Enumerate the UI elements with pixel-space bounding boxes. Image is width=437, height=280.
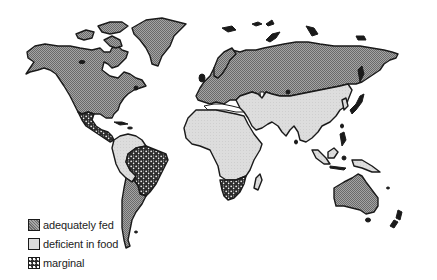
island-sulawesi xyxy=(342,156,346,160)
island-tasmania xyxy=(366,218,371,222)
island-new-zealand-south xyxy=(390,220,398,228)
region-madagascar xyxy=(254,174,262,190)
region-caribbean xyxy=(114,122,128,125)
island xyxy=(128,127,133,129)
island-taiwan xyxy=(341,124,344,128)
legend-swatch-deficient xyxy=(28,238,40,250)
island-britain xyxy=(199,74,205,82)
island xyxy=(387,187,390,189)
island xyxy=(266,20,274,26)
legend-label: deficient in food xyxy=(43,238,118,250)
island-svalbard xyxy=(222,26,236,32)
region-north-america xyxy=(26,44,146,118)
region-arctic-islands xyxy=(76,30,94,40)
island xyxy=(134,86,138,90)
legend-swatch-adequately-fed xyxy=(28,219,40,231)
island-falklands xyxy=(135,231,138,233)
region-australia xyxy=(334,174,378,214)
island-severnaya xyxy=(306,26,318,36)
region-baffin xyxy=(104,36,122,48)
legend-swatch-marginal xyxy=(28,257,40,269)
region-arctic-islands-2 xyxy=(98,22,128,34)
region-greenland xyxy=(132,18,186,66)
island xyxy=(252,22,262,26)
lake xyxy=(286,90,290,94)
legend: adequately fed deficient in food margina… xyxy=(28,215,118,272)
region-new-guinea xyxy=(352,160,380,172)
region-borneo xyxy=(328,148,338,158)
legend-item-adequately-fed: adequately fed xyxy=(28,215,118,234)
island xyxy=(79,61,85,64)
legend-label: adequately fed xyxy=(43,219,114,231)
island-novaya-zemlya xyxy=(266,32,280,42)
island-new-zealand-north xyxy=(396,210,402,220)
region-south-africa xyxy=(220,176,246,200)
island-philippines xyxy=(340,132,346,146)
legend-label: marginal xyxy=(43,257,84,269)
island-new-siberian xyxy=(356,36,366,40)
island-java xyxy=(330,166,346,170)
legend-item-deficient: deficient in food xyxy=(28,234,118,253)
island-japan xyxy=(350,94,364,114)
legend-item-marginal: marginal xyxy=(28,253,118,272)
island-sri-lanka xyxy=(295,140,298,144)
